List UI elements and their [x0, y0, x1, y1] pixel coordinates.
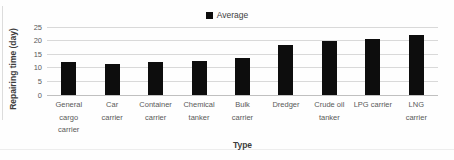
y-tick-label: 5	[16, 77, 42, 86]
bar	[235, 58, 250, 95]
bar-chart-figure: Average Repairing time (day) Type 051015…	[0, 0, 454, 160]
legend-label: Average	[217, 10, 249, 20]
x-tick-label: LPG carrier	[349, 99, 397, 112]
y-tick-label: 20	[16, 36, 42, 45]
x-tick-label: Generalcargocarrier	[45, 99, 93, 137]
x-tick-label: Bulkcarrier	[219, 99, 267, 124]
page-edge-line-left	[2, 6, 3, 120]
x-tick-label: Containercarrier	[132, 99, 180, 124]
gridline	[47, 27, 438, 28]
y-tick-label: 10	[16, 63, 42, 72]
bar	[365, 39, 380, 95]
x-tick-label: Dredger	[262, 99, 310, 112]
x-tick-label: Chemicaltanker	[175, 99, 223, 124]
y-tick-label: 0	[16, 91, 42, 100]
y-tick-label: 25	[16, 23, 42, 32]
chart-legend: Average	[0, 9, 454, 21]
bar	[278, 45, 293, 95]
bar	[322, 41, 337, 95]
x-axis-title: Type	[47, 140, 438, 150]
bar	[105, 64, 120, 95]
bar	[148, 62, 163, 95]
x-tick-label: Crude oiltanker	[305, 99, 353, 124]
y-tick-label: 15	[16, 50, 42, 59]
x-tick-label: Carcarrier	[88, 99, 136, 124]
legend-swatch-icon	[206, 12, 213, 19]
bar	[61, 62, 76, 95]
x-tick-label: LNGcarrier	[392, 99, 440, 124]
bar	[409, 35, 424, 95]
bar	[192, 61, 207, 95]
plot-area	[47, 27, 438, 95]
